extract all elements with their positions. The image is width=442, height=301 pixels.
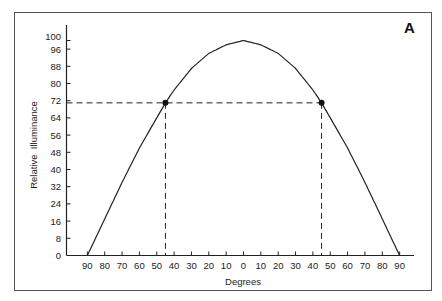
y-tick-label: 48 [50,147,61,158]
y-tick-label: 0 [56,250,61,261]
x-tick-label: 70 [117,260,128,271]
x-tick-label: 50 [151,260,162,271]
y-tick-label: 56 [50,130,61,141]
y-tick-label: 24 [50,198,61,209]
x-tick-label: 40 [308,260,319,271]
x-tick-label: 50 [325,260,336,271]
illuminance-curve [87,41,399,256]
x-tick-label: 90 [394,260,405,271]
panel-label: A [404,19,415,36]
y-tick-label: 64 [50,112,61,123]
y-tick-label: 32 [50,181,61,192]
y-tick-label: 80 [50,78,61,89]
intersection-point [319,100,325,106]
y-tick-label: 96 [50,44,61,55]
x-tick-label: 60 [342,260,353,271]
ticks: 0816243240485664728088961009080706050403… [45,31,405,271]
x-axis-title: Degrees [225,276,261,287]
x-tick-label: 40 [169,260,180,271]
y-tick-label: 40 [50,164,61,175]
intersection-point [162,100,168,106]
x-tick-label: 60 [134,260,145,271]
y-tick-label: 8 [56,233,61,244]
x-tick-label: 10 [221,260,232,271]
x-tick-label: 0 [241,260,246,271]
illuminance-chart: 0816243240485664728088961009080706050403… [0,0,442,301]
axes [67,25,415,256]
x-tick-label: 30 [290,260,301,271]
x-tick-label: 30 [186,260,197,271]
guide-lines [67,103,322,256]
y-tick-label: 100 [45,31,61,42]
x-tick-label: 20 [273,260,284,271]
panel-border [15,13,432,291]
y-tick-label: 16 [50,216,61,227]
x-tick-label: 20 [204,260,215,271]
x-tick-label: 80 [99,260,110,271]
y-axis-title: Relative Illuminance [28,101,39,189]
x-tick-label: 90 [82,260,93,271]
y-tick-label: 72 [50,95,61,106]
x-tick-label: 70 [360,260,371,271]
y-tick-label: 88 [50,61,61,72]
x-tick-label: 80 [377,260,388,271]
x-tick-label: 10 [256,260,267,271]
